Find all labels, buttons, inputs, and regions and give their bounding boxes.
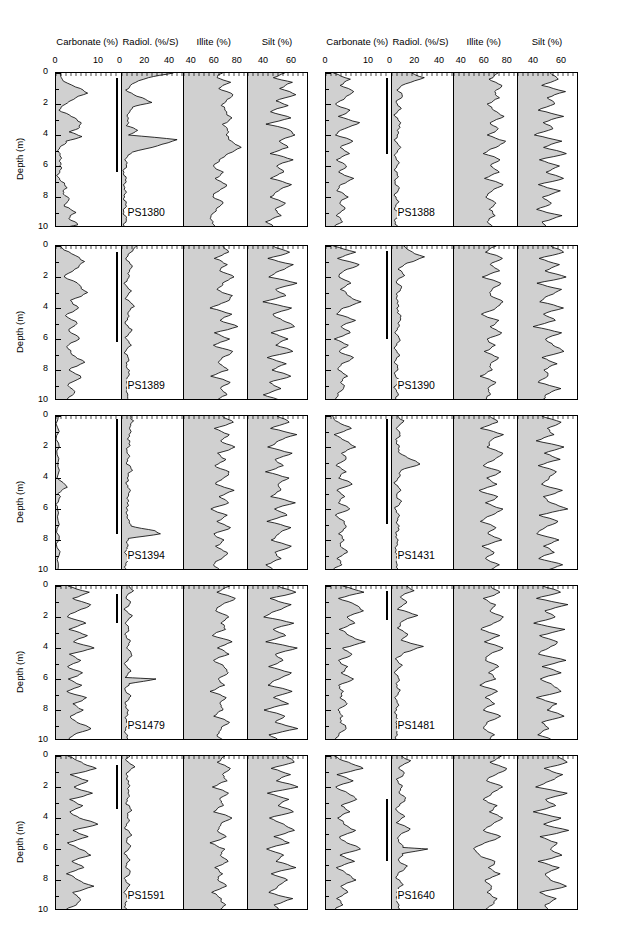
core-label-PS1479: PS1479 [127, 719, 166, 731]
subplot-silt---- [247, 416, 308, 569]
core-label-PS1640: PS1640 [397, 889, 436, 901]
subplot-illite---- [183, 756, 249, 909]
curve-illite---- [184, 416, 249, 569]
curve-carbonate---- [56, 586, 121, 739]
subplot-carbonate---- [326, 246, 391, 399]
depth-tick [326, 849, 331, 850]
subplot-illite---- [453, 756, 519, 909]
depth-tick [56, 246, 61, 247]
subplot-illite---- [453, 586, 519, 739]
depth-tick [326, 120, 329, 121]
subplot-radiol-----s- [121, 756, 184, 909]
depth-tick [56, 865, 59, 866]
depth-tick [56, 710, 61, 711]
curve-illite---- [184, 586, 249, 739]
depth-tick [326, 525, 329, 526]
curve-radiol-----s- [392, 756, 454, 909]
subplot-silt---- [517, 416, 578, 569]
depth-tick [56, 213, 59, 214]
depth-tick-label: 10 [24, 221, 48, 231]
core-section-bar [386, 78, 388, 154]
depth-tick [326, 556, 329, 557]
depth-tick [56, 432, 59, 433]
depth-tick [56, 197, 61, 198]
depth-tick-label: 2 [24, 610, 48, 620]
subplot-radiol-----s- [391, 586, 454, 739]
depth-tick [56, 370, 61, 371]
curve-silt---- [248, 416, 308, 569]
core-section-bar [116, 765, 118, 808]
core-section-bar [386, 419, 388, 524]
subplot-silt---- [517, 756, 578, 909]
depth-tick [56, 834, 59, 835]
curve-illite---- [454, 756, 519, 909]
curve-radiol-----s- [122, 73, 184, 226]
depth-tick [326, 246, 331, 247]
depth-tick [56, 509, 61, 510]
depth-tick [326, 509, 331, 510]
depth-tick [56, 463, 59, 464]
core-section-bar [116, 594, 118, 623]
curve-radiol-----s- [392, 586, 454, 739]
depth-tick [326, 432, 329, 433]
depth-tick-label: 0 [24, 66, 48, 76]
depth-tick [326, 772, 329, 773]
depth-tick [326, 648, 331, 649]
subplot-radiol-----s- [121, 586, 184, 739]
depth-tick [326, 213, 329, 214]
subplot-radiol-----s- [121, 73, 184, 226]
curve-carbonate---- [326, 246, 391, 399]
core-label-PS1389: PS1389 [127, 379, 166, 391]
curve-carbonate---- [326, 586, 391, 739]
curve-radiol-----s- [392, 416, 454, 569]
curve-carbonate---- [326, 73, 391, 226]
subplot-illite---- [183, 586, 249, 739]
depth-tick [326, 308, 331, 309]
depth-tick [56, 880, 61, 881]
depth-tick [326, 386, 329, 387]
depth-tick [56, 494, 59, 495]
depth-tick-label: 8 [24, 190, 48, 200]
depth-tick [326, 135, 331, 136]
subplot-silt---- [247, 586, 308, 739]
core-panel-PS1394: PS1394 [55, 415, 308, 570]
depth-tick [326, 880, 331, 881]
x-tick-label: 40 [519, 55, 547, 65]
depth-tick [326, 540, 331, 541]
depth-tick [326, 695, 329, 696]
depth-tick [56, 73, 61, 74]
core-panel-PS1481: PS1481 [325, 585, 578, 740]
depth-tick [56, 818, 61, 819]
depth-tick [326, 293, 329, 294]
subplot-carbonate---- [326, 416, 391, 569]
curve-radiol-----s- [122, 756, 184, 909]
depth-tick-label: 8 [24, 703, 48, 713]
depth-tick [56, 756, 61, 757]
depth-tick [326, 494, 329, 495]
sediment-core-figure: Carbonate (%)Radiol. (%/S)Illite (%)Silt… [0, 0, 618, 945]
depth-tick [56, 695, 59, 696]
subplot-silt---- [247, 73, 308, 226]
depth-tick [326, 834, 329, 835]
curve-silt---- [518, 416, 578, 569]
subplot-silt---- [517, 246, 578, 399]
depth-tick [56, 617, 61, 618]
curve-illite---- [184, 756, 249, 909]
depth-tick [326, 447, 331, 448]
curve-silt---- [248, 586, 308, 739]
depth-tick [56, 540, 61, 541]
curve-radiol-----s- [392, 246, 454, 399]
curve-illite---- [184, 73, 249, 226]
core-panel-PS1591: PS1591 [55, 755, 308, 910]
curve-silt---- [248, 756, 308, 909]
subplot-carbonate---- [326, 756, 391, 909]
x-tick-label: 80 [493, 55, 521, 65]
core-panel-PS1640: PS1640 [325, 755, 578, 910]
depth-tick [56, 89, 59, 90]
curve-illite---- [184, 246, 249, 399]
depth-tick-label: 10 [24, 564, 48, 574]
x-tick-label: 0 [41, 55, 69, 65]
core-panel-PS1479: PS1479 [55, 585, 308, 740]
core-label-PS1481: PS1481 [397, 719, 436, 731]
depth-tick-label: 6 [24, 842, 48, 852]
